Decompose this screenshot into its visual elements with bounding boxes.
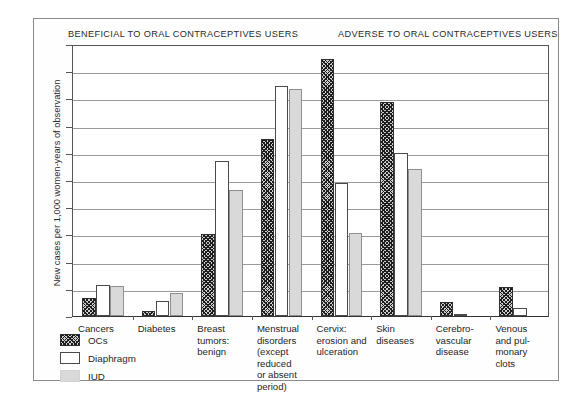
category-label-line: or absent: [257, 369, 313, 381]
y-axis-tick-mark: [66, 127, 72, 128]
legend-swatch-icon: [60, 370, 80, 382]
y-axis-title: New cases per 1,000 women-years of obser…: [52, 63, 62, 303]
gridline: [73, 128, 548, 129]
category-label-line: reduced: [257, 358, 313, 370]
category-label-line: Diabetes: [138, 323, 194, 335]
bar-diaphragm: [215, 161, 229, 316]
x-axis-group-tick: [133, 316, 134, 320]
bar-ocs: [499, 287, 513, 316]
gridline: [73, 236, 548, 237]
category-label-line: (except: [257, 346, 313, 358]
bar-iud: [289, 89, 303, 316]
bar-iud: [110, 286, 124, 316]
bar-diaphragm: [513, 308, 527, 316]
category-label-line: clots: [495, 358, 551, 370]
legend-label: Diaphragm: [88, 353, 136, 364]
bar-iud: [349, 233, 363, 316]
bar-diaphragm: [454, 314, 468, 316]
bar-ocs: [201, 234, 215, 316]
x-axis-group-tick: [312, 316, 313, 320]
category-label-line: diseases: [376, 335, 432, 347]
bar-iud: [408, 169, 422, 316]
gridline: [73, 100, 548, 101]
x-axis-category-label: Breasttumors:benign: [197, 323, 253, 358]
bar-diaphragm: [335, 183, 349, 316]
x-axis-category-label: Cerebro-vasculardisease: [436, 323, 492, 358]
plot-area: [72, 45, 549, 317]
category-label-line: disease: [436, 346, 492, 358]
bar-ocs: [261, 139, 275, 316]
category-label-line: Cerebro-: [436, 323, 492, 335]
category-label-line: and pul-: [495, 335, 551, 347]
x-axis-category-label: Diabetes: [138, 323, 194, 335]
legend-swatch-icon: [60, 334, 80, 346]
x-axis-category-label: Cervix:erosion andulceration: [317, 323, 373, 358]
category-label-line: period): [257, 381, 313, 393]
x-axis-category-label: Venousand pul-monaryclots: [495, 323, 551, 369]
legend-item-ocs: OCs: [60, 331, 136, 349]
gridline: [73, 291, 548, 292]
bar-iud: [170, 293, 184, 316]
bar-ocs: [321, 59, 335, 316]
bar-diaphragm: [156, 301, 170, 316]
y-axis-tick-mark: [66, 99, 72, 100]
bar-ocs: [380, 102, 394, 316]
category-label-line: erosion and: [317, 335, 373, 347]
gridline: [73, 73, 548, 74]
bar-ocs: [142, 311, 156, 316]
category-label-line: Breast: [197, 323, 253, 335]
category-label-line: disorders: [257, 335, 313, 347]
category-label-line: vascular: [436, 335, 492, 347]
bar-diaphragm: [275, 86, 289, 316]
y-axis-tick-mark: [66, 235, 72, 236]
x-axis-group-tick: [192, 316, 193, 320]
category-label-line: Menstrual: [257, 323, 313, 335]
category-label-line: Skin: [376, 323, 432, 335]
y-axis-tick-mark: [66, 181, 72, 182]
y-axis-tick-mark: [66, 263, 72, 264]
legend-label: OCs: [88, 335, 108, 346]
bar-ocs: [82, 298, 96, 316]
y-axis-tick-mark: [66, 154, 72, 155]
gridline: [73, 209, 548, 210]
x-axis-category-label: Skindiseases: [376, 323, 432, 346]
gridline: [73, 182, 548, 183]
gridline: [73, 155, 548, 156]
legend-label: IUD: [88, 371, 105, 382]
y-axis-tick-mark: [66, 208, 72, 209]
bar-iud: [229, 190, 243, 316]
x-axis-group-tick: [431, 316, 432, 320]
category-label-line: tumors:: [197, 335, 253, 347]
category-label-line: monary: [495, 346, 551, 358]
x-axis-category-label: Menstrualdisorders(exceptreducedor absen…: [257, 323, 313, 393]
bar-diaphragm: [96, 285, 110, 316]
gridline: [73, 264, 548, 265]
chart-figure: BENEFICIAL TO ORAL CONTRACEPTIVES USERS …: [0, 0, 573, 403]
x-axis-group-tick: [371, 316, 372, 320]
legend-swatch-icon: [60, 352, 80, 364]
x-axis-group-tick: [252, 316, 253, 320]
section-header-adverse: ADVERSE TO ORAL CONTRACEPTIVES USERS: [338, 29, 558, 39]
legend-item-iud: IUD: [60, 367, 136, 385]
y-axis-tick-mark: [66, 290, 72, 291]
bar-ocs: [440, 302, 454, 316]
category-label-line: ulceration: [317, 346, 373, 358]
chart-legend: OCsDiaphragmIUD: [60, 331, 136, 385]
category-label-line: Venous: [495, 323, 551, 335]
section-header-beneficial: BENEFICIAL TO ORAL CONTRACEPTIVES USERS: [68, 29, 298, 39]
legend-item-diaphragm: Diaphragm: [60, 349, 136, 367]
category-label-line: benign: [197, 346, 253, 358]
bar-diaphragm: [394, 153, 408, 316]
y-axis-tick-mark: [66, 72, 72, 73]
y-axis-tick-mark: [66, 317, 72, 318]
x-axis-group-tick: [490, 316, 491, 320]
y-axis-tick-mark: [66, 45, 72, 46]
category-label-line: Cervix:: [317, 323, 373, 335]
